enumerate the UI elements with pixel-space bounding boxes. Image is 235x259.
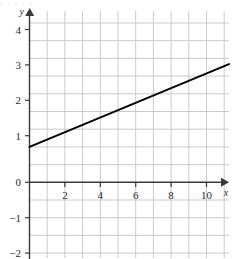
x-axis-label: x: [223, 187, 229, 198]
coordinate-plane-chart: 4 3 2 1 0 −1 −2 2 4 6 8 10 y x: [0, 0, 235, 259]
horizontal-gridlines: [29, 23, 229, 253]
x-tick-label: 6: [133, 189, 139, 201]
x-tick-marks: [65, 182, 207, 187]
y-tick-labels: 4 3 2 1 0 −1 −2: [9, 24, 21, 259]
y-tick-label: 3: [16, 59, 22, 71]
x-tick-label: 8: [168, 189, 174, 201]
y-tick-label: 2: [16, 94, 22, 106]
y-axis: [25, 8, 34, 259]
y-axis-label: y: [19, 6, 25, 17]
y-axis-arrow: [25, 8, 34, 16]
x-tick-label: 2: [62, 189, 68, 201]
x-axis-arrow: [221, 178, 229, 187]
x-tick-label: 4: [98, 189, 104, 201]
y-tick-label: 4: [16, 24, 22, 36]
plot-svg: 4 3 2 1 0 −1 −2 2 4 6 8 10 y x: [0, 0, 235, 259]
x-tick-labels: 2 4 6 8 10: [62, 189, 212, 201]
y-tick-label: 0: [16, 176, 22, 188]
y-tick-label: −2: [9, 247, 21, 259]
x-tick-label: 10: [201, 189, 213, 201]
x-axis: [29, 178, 229, 187]
y-tick-label: −1: [9, 212, 21, 224]
y-tick-label: 1: [16, 130, 22, 142]
